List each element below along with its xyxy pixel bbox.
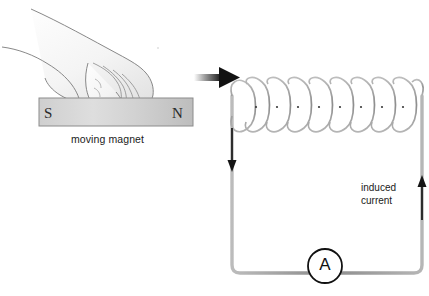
bar-magnet (39, 98, 193, 126)
induced-current-line-2: current (361, 194, 396, 207)
coil-crossing-marks (255, 106, 404, 108)
moving-magnet-caption: moving magnet (0, 133, 215, 145)
magnet-body (39, 98, 193, 126)
arrow-head (219, 67, 240, 88)
speck-dot (157, 47, 159, 49)
magnet-north-pole-label: N (172, 105, 183, 122)
induced-current-label: induced current (361, 181, 396, 207)
magnet-south-pole-label: S (44, 105, 52, 122)
coil (231, 78, 423, 132)
induction-figure: S N moving magnet induced current A (0, 0, 429, 296)
right-current-arrow-up-icon (418, 175, 427, 220)
coil-turn-1 (231, 80, 255, 131)
left-current-arrow-down-icon (228, 128, 237, 172)
induced-current-line-1: induced (361, 181, 396, 194)
ammeter-symbol: A (313, 255, 337, 275)
arrow-shaft (194, 74, 222, 81)
figure-canvas (0, 0, 429, 296)
right-arrow-icon (194, 67, 240, 88)
circuit-diagram (228, 78, 427, 283)
